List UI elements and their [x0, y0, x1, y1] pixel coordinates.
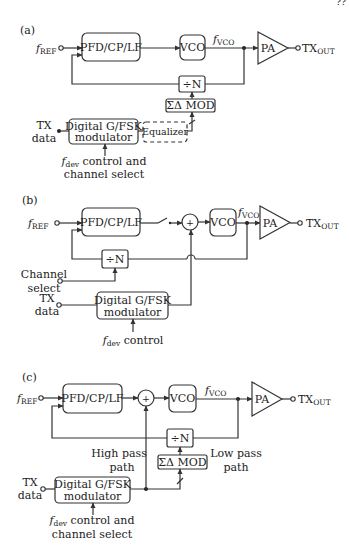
summer-label: +	[186, 217, 194, 228]
fdev-label: fdev control and	[61, 155, 147, 169]
divider-label: ÷N	[183, 78, 202, 91]
f-vco-label: fVCO	[204, 384, 226, 398]
panel-a: (a) fREF PFD/CP/LF VCO fVCO PA TXOUT ÷N …	[20, 24, 335, 181]
f-ref-port	[39, 396, 43, 400]
panel-label: (b)	[22, 194, 38, 207]
sdm-label: ΣΔ MOD	[158, 456, 206, 469]
fdev-label: fdev control	[102, 334, 164, 348]
f-vco-label: fVCO	[237, 206, 259, 220]
low-pass-path-label: Low pass	[210, 447, 262, 460]
page-number: ??	[336, 0, 346, 7]
tx-out-label: TXOUT	[306, 217, 339, 231]
pa-label: PA	[255, 393, 270, 406]
modulator-label-2: modulator	[104, 306, 162, 319]
panel-b: (b) fREF PFD/CP/LF + VCO fVCO PA TXOUT ÷…	[21, 194, 339, 348]
f-ref-port	[55, 221, 59, 225]
high-pass-path-label-2: path	[109, 461, 134, 474]
tx-data-label-2: data	[35, 305, 60, 318]
vco-label: VCO	[179, 41, 205, 54]
low-pass-path-label-2: path	[223, 461, 248, 474]
divider-label: ÷N	[106, 253, 125, 266]
fdev-label: fdev control and	[49, 514, 135, 528]
pfd-label: PFD/CP/LF	[80, 41, 142, 54]
tx-data-port	[41, 487, 45, 491]
tx-out-port	[298, 221, 302, 225]
vco-label: VCO	[169, 392, 195, 405]
modulator-label-2: modulator	[64, 490, 122, 503]
sdm-label: ΣΔ MOD	[166, 99, 214, 112]
panel-label: (c)	[22, 371, 37, 384]
panel-c: (c) fREF PFD/CP/LF + VCO fVCO PA TXOUT ÷…	[16, 371, 331, 541]
tx-out-label: TXOUT	[298, 393, 331, 407]
transmitter-architectures-figure: ?? (a) fREF PFD/CP/LF VCO fVCO PA TXOUT …	[0, 0, 349, 556]
f-ref-label: fREF	[27, 217, 48, 231]
equalizer-label: Equalizer	[142, 126, 189, 137]
f-ref-port	[59, 46, 63, 50]
tx-out-port	[296, 46, 300, 50]
divider-label: ÷N	[171, 432, 190, 445]
summer-label: +	[142, 393, 150, 404]
high-pass-path-label: High pass	[91, 447, 147, 460]
f-ref-label: fREF	[35, 42, 56, 56]
tx-out-label: TXOUT	[302, 42, 335, 56]
panel-label: (a)	[20, 24, 35, 37]
tx-out-port	[291, 397, 295, 401]
fdev-label-2: channel select	[52, 528, 133, 541]
f-vco-label: fVCO	[212, 33, 234, 47]
vco-label: VCO	[209, 216, 235, 229]
pa-label: PA	[263, 217, 278, 230]
fdev-label-2: channel select	[64, 168, 145, 181]
modulator-label-2: modulator	[75, 131, 133, 144]
pa-label: PA	[261, 42, 276, 55]
tx-data-label-2: data	[18, 489, 43, 502]
f-ref-label: fREF	[16, 392, 37, 406]
tx-data-label: TX	[36, 119, 51, 132]
pfd-label: PFD/CP/LF	[80, 216, 142, 229]
tx-data-port	[57, 303, 61, 307]
tx-data-label: TX	[22, 476, 37, 489]
tx-data-label: TX	[39, 292, 54, 305]
switch	[158, 218, 167, 223]
pfd-label: PFD/CP/LF	[61, 392, 123, 405]
tx-data-label-2: data	[32, 132, 57, 145]
channel-select-port	[58, 279, 62, 283]
